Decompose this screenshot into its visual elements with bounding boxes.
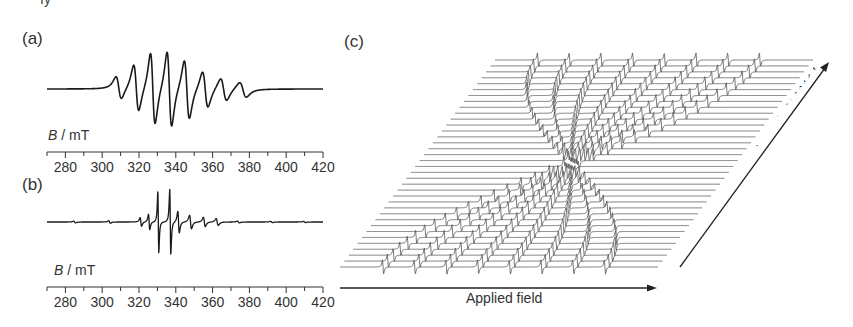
panel-b-spectrum	[47, 189, 323, 254]
figure-canvas	[0, 0, 853, 327]
panel-b-x-axis	[47, 287, 323, 293]
panel-a-x-axis	[47, 152, 323, 158]
panel-c-waterfall	[340, 53, 813, 281]
panel-a-spectrum	[47, 52, 323, 126]
applied-field-arrow	[340, 285, 657, 292]
